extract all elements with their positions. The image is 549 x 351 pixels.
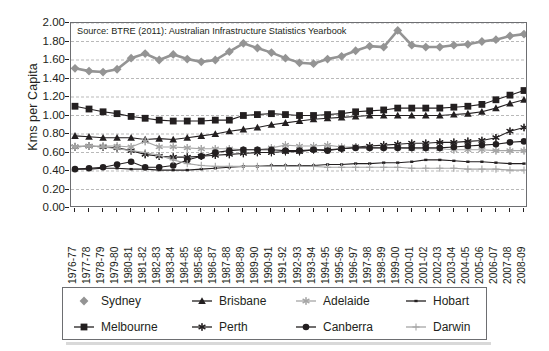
- x-tick-mark: [495, 208, 496, 212]
- data-point-marker: [85, 142, 92, 149]
- data-point-marker: [296, 147, 303, 154]
- x-tick-label: 1996-97: [349, 247, 359, 284]
- x-tick-label: 1986-87: [208, 247, 218, 284]
- legend-label: Sydney: [101, 294, 141, 308]
- data-point-marker: [478, 37, 487, 46]
- data-point-marker: [183, 55, 192, 64]
- y-tick-mark: [65, 22, 69, 23]
- legend-item-adelaide[interactable]: Adelaide: [295, 294, 405, 308]
- data-point-marker: [85, 67, 94, 76]
- data-point-marker: [352, 145, 359, 152]
- legend-item-darwin[interactable]: Darwin: [405, 320, 498, 334]
- y-tick-label: 1.00: [31, 110, 65, 120]
- data-point-marker: [303, 324, 310, 331]
- x-tick-mark: [425, 208, 426, 212]
- data-point-marker: [141, 49, 150, 58]
- x-tick-label: 2008-09: [517, 247, 527, 284]
- data-point-marker: [507, 139, 514, 146]
- x-tick-label: 1991-92: [278, 247, 288, 284]
- data-point-marker: [352, 164, 359, 171]
- data-point-marker: [494, 161, 497, 163]
- legend-item-sydney[interactable]: Sydney: [73, 294, 191, 308]
- data-point-marker: [198, 162, 205, 169]
- data-point-marker: [87, 168, 90, 170]
- x-tick-mark: [397, 208, 398, 212]
- x-tick-label: 1983-84: [166, 247, 176, 284]
- data-point-marker: [492, 166, 499, 173]
- legend-item-canberra[interactable]: Canberra: [295, 320, 405, 334]
- data-point-marker: [100, 108, 107, 115]
- data-point-marker: [493, 141, 500, 148]
- data-point-marker: [436, 165, 443, 172]
- data-point-marker: [366, 164, 373, 171]
- asterisk-marker: [295, 294, 317, 308]
- x-tick-mark: [158, 208, 159, 212]
- data-point-marker: [296, 163, 303, 170]
- data-point-marker: [323, 55, 332, 64]
- data-point-marker: [309, 59, 318, 68]
- x-tick-label: 1999-00: [391, 247, 401, 284]
- data-point-marker: [184, 118, 191, 125]
- x-tick-label: 2000-01: [405, 247, 415, 284]
- data-point-marker: [466, 161, 469, 163]
- y-tick-mark: [65, 96, 69, 97]
- data-point-marker: [380, 145, 387, 152]
- x-tick-label: 1989-90: [250, 247, 260, 284]
- data-point-marker: [130, 168, 133, 170]
- data-point-marker: [338, 146, 345, 153]
- data-point-marker: [158, 169, 161, 171]
- data-point-marker: [436, 105, 443, 112]
- data-point-marker: [295, 58, 304, 67]
- data-point-marker: [73, 168, 76, 170]
- data-point-marker: [382, 161, 385, 163]
- data-point-marker: [506, 166, 513, 173]
- x-tick-mark: [186, 208, 187, 212]
- x-tick-label: 1994-95: [321, 247, 331, 284]
- y-tick-label: 1.20: [31, 91, 65, 101]
- data-point-marker: [71, 132, 79, 139]
- data-point-marker: [408, 165, 415, 172]
- legend-label: Adelaide: [323, 294, 370, 308]
- data-point-marker: [520, 166, 527, 173]
- data-point-marker: [463, 40, 472, 49]
- x-tick-label: 2006-07: [489, 247, 499, 284]
- x-tick-label: 1982-83: [152, 247, 162, 284]
- legend-item-brisbane[interactable]: Brisbane: [191, 294, 295, 308]
- data-point-marker: [198, 153, 205, 160]
- x-tick-mark: [369, 208, 370, 212]
- legend-shadow: [66, 342, 491, 345]
- legend-item-perth[interactable]: Perth: [191, 320, 295, 334]
- x-tick-mark: [481, 208, 482, 212]
- y-tick-label: 0.00: [31, 202, 65, 212]
- x-tick-label: 1988-89: [236, 247, 246, 284]
- data-point-marker: [240, 163, 247, 170]
- legend-item-hobart[interactable]: Hobart: [405, 294, 498, 308]
- x-tick-label: 1987-88: [222, 247, 232, 284]
- x-tick-mark: [228, 208, 229, 212]
- data-point-marker: [507, 127, 514, 135]
- legend-label: Hobart: [433, 294, 469, 308]
- data-point-marker: [521, 87, 527, 94]
- data-point-marker: [281, 54, 290, 63]
- x-tick-label: 1992-93: [293, 247, 303, 284]
- x-tick-mark: [453, 208, 454, 212]
- x-tick-label: 1990-91: [264, 247, 274, 284]
- legend-item-melbourne[interactable]: Melbourne: [73, 320, 191, 334]
- y-tick-mark: [65, 78, 69, 79]
- data-point-marker: [128, 113, 135, 120]
- data-series-layer: [71, 23, 527, 207]
- data-point-marker: [268, 146, 275, 153]
- x-tick-label: 2002-03: [433, 247, 443, 284]
- data-point-marker: [394, 105, 401, 112]
- data-point-marker: [101, 167, 104, 169]
- data-point-marker: [268, 163, 275, 170]
- circle-marker: [295, 320, 317, 334]
- data-point-marker: [81, 324, 88, 331]
- x-tick-mark: [144, 208, 145, 212]
- data-point-marker: [424, 159, 427, 161]
- data-point-marker: [240, 146, 247, 153]
- star-marker: [191, 320, 213, 334]
- x-tick-mark: [355, 208, 356, 212]
- x-tick-label: 2001-02: [419, 247, 429, 284]
- x-tick-mark: [130, 208, 131, 212]
